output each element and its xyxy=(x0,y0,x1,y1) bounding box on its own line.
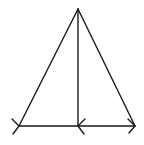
arrow-mark-left-icon xyxy=(12,119,19,134)
right-side xyxy=(78,9,135,126)
triangle-diagram xyxy=(0,0,144,145)
left-side xyxy=(19,9,78,126)
